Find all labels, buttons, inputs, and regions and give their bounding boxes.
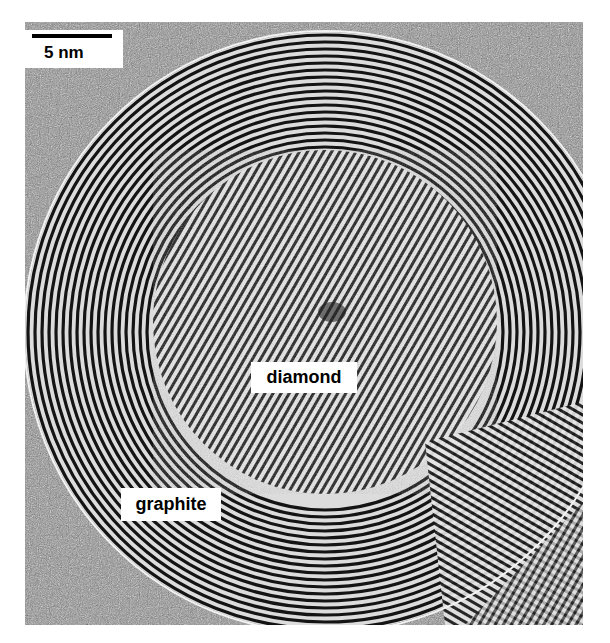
lattice-fringe-pattern (25, 22, 583, 625)
graphite-label: graphite (121, 488, 221, 521)
scale-bar: 5 nm (22, 30, 123, 68)
diamond-label-text: diamond (267, 367, 342, 388)
diamond-label: diamond (251, 362, 357, 393)
tem-micrograph (25, 22, 583, 625)
scale-bar-label: 5 nm (44, 43, 84, 63)
scale-bar-line (32, 34, 112, 38)
graphite-label-text: graphite (135, 494, 206, 515)
